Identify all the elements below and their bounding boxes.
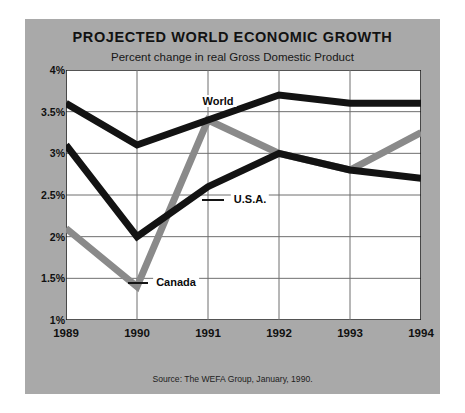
- y-axis-tick-label: 2%: [25, 231, 65, 243]
- y-axis-tick-label: 1%: [25, 314, 65, 326]
- y-axis-tick-label: 3%: [25, 147, 65, 159]
- x-axis-tick-label: 1990: [107, 327, 167, 339]
- series-annotation-canada-leader: [128, 282, 148, 284]
- plot-area: WorldU.S.A.Canada: [66, 70, 421, 320]
- chart-source: Source: The WEFA Group, January, 1990.: [25, 374, 440, 384]
- chart-title: PROJECTED WORLD ECONOMIC GROWTH: [25, 29, 440, 45]
- y-axis-tick-label: 4%: [25, 64, 65, 76]
- y-axis-tick-label: 3.5%: [25, 106, 65, 118]
- x-axis-labels: 198919901991199219931994: [66, 327, 421, 345]
- x-axis-tick-label: 1992: [249, 327, 309, 339]
- series-annotation-canada: Canada: [153, 276, 199, 288]
- series-annotation-world: World: [200, 95, 237, 107]
- x-axis-tick-label: 1989: [36, 327, 96, 339]
- series-annotation-usa: U.S.A.: [231, 193, 269, 205]
- y-axis-labels: 4%3.5%3%2.5%2%1.5%1%: [21, 70, 65, 320]
- chart-screenshot: PROJECTED WORLD ECONOMIC GROWTH Percent …: [0, 0, 465, 413]
- x-axis-tick-label: 1994: [391, 327, 451, 339]
- y-axis-tick-label: 2.5%: [25, 189, 65, 201]
- x-axis-tick-label: 1991: [178, 327, 238, 339]
- y-axis-tick-label: 1.5%: [25, 272, 65, 284]
- chart-subtitle: Percent change in real Gross Domestic Pr…: [25, 51, 440, 63]
- series-annotation-usa-leader: [202, 199, 224, 201]
- chart-card: PROJECTED WORLD ECONOMIC GROWTH Percent …: [25, 19, 440, 394]
- x-axis-tick-label: 1993: [320, 327, 380, 339]
